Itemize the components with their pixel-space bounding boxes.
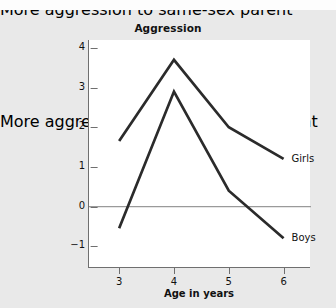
- x-axis-tick: [119, 267, 120, 274]
- y-axis-tick-label: 2: [79, 120, 85, 131]
- y-axis-tick: [91, 167, 98, 168]
- x-axis-tick: [284, 267, 285, 274]
- y-axis-tick-label: 1: [79, 160, 85, 171]
- series-label-boys: Boys: [292, 232, 316, 243]
- y-axis-tick: [91, 246, 98, 247]
- y-axis-tick-label: 3: [79, 81, 85, 92]
- y-axis-tick-label: 4: [79, 41, 85, 52]
- x-axis-tick-label: 6: [280, 276, 286, 287]
- x-axis-tick-label: 4: [171, 276, 177, 287]
- x-axis-tick: [174, 267, 175, 274]
- y-axis-tick: [91, 88, 98, 89]
- x-axis-title: Age in years: [88, 288, 310, 299]
- x-axis-tick-label: 5: [226, 276, 232, 287]
- y-axis-tick: [91, 207, 98, 208]
- y-axis-tick: [91, 127, 98, 128]
- figure-container: Aggression More aggression to same-sex p…: [0, 0, 336, 308]
- x-axis-tick: [229, 267, 230, 274]
- plot-svg: [89, 40, 311, 268]
- chart-title: Aggression: [0, 22, 336, 34]
- series-label-girls: Girls: [292, 153, 315, 164]
- y-axis-tick-label: −1: [70, 239, 85, 250]
- y-axis-tick: [91, 48, 98, 49]
- x-axis-tick-label: 3: [116, 276, 122, 287]
- series-line-boys: [119, 92, 283, 239]
- series-line-girls: [119, 60, 283, 159]
- plot-area: 43210−13456GirlsBoys: [88, 40, 310, 268]
- y-axis-tick-label: 0: [79, 200, 85, 211]
